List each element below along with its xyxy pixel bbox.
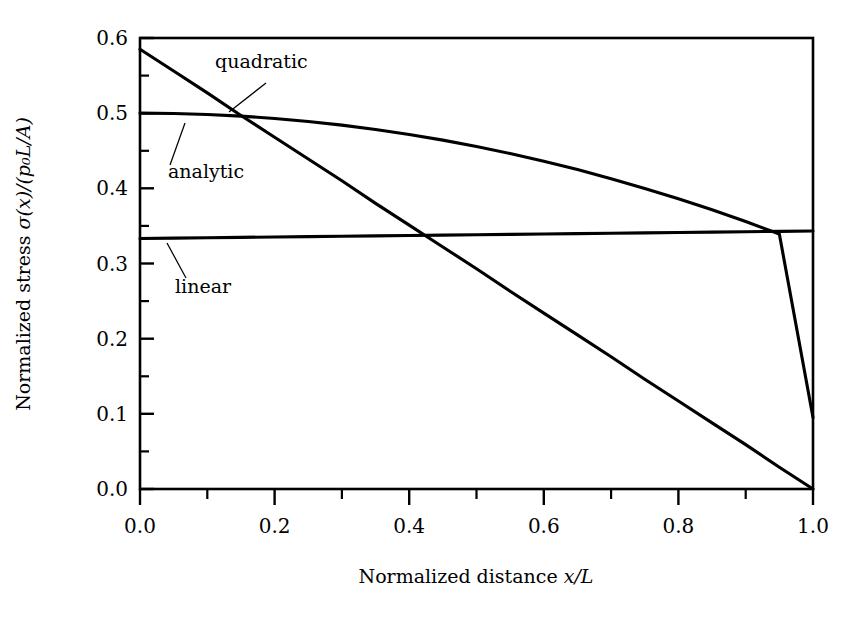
- y-tick-label: 0.0: [96, 477, 128, 501]
- y-tick-label: 0.5: [96, 101, 128, 125]
- x-axis-title-group: Normalized distance x/L: [359, 565, 594, 587]
- y-tick-label: 0.6: [96, 26, 128, 50]
- y-axis-title-math: σ(x)/(p₀L/A): [12, 117, 34, 229]
- x-axis-title-prefix: Normalized distance: [359, 565, 564, 587]
- y-axis-title: Normalized stress σ(x)/(p₀L/A): [12, 117, 34, 411]
- x-tick-label: 0.6: [528, 514, 560, 538]
- x-tick-label: 1.0: [797, 514, 829, 538]
- y-axis-title-prefix: Normalized stress: [12, 229, 34, 410]
- x-tick-label: 0.0: [124, 514, 156, 538]
- stress-distribution-chart: 0.0 0.1 0.2 0.3 0.4 0.5 0.6 0.0 0.2 0.4 …: [0, 0, 865, 627]
- x-axis-title: Normalized distance x/L: [359, 565, 594, 587]
- x-tick-label: 0.2: [259, 514, 291, 538]
- x-tick-label: 0.8: [662, 514, 694, 538]
- x-tick-label: 0.4: [393, 514, 425, 538]
- y-axis-title-group: Normalized stress σ(x)/(p₀L/A): [12, 117, 34, 411]
- y-tick-label: 0.2: [96, 327, 128, 351]
- series-label-quadratic: quadratic: [215, 50, 308, 72]
- y-tick-label: 0.1: [96, 402, 128, 426]
- series-label-linear: linear: [175, 275, 232, 297]
- y-tick-label: 0.3: [96, 252, 128, 276]
- x-axis-title-math: x/L: [564, 565, 594, 587]
- series-label-analytic: analytic: [168, 160, 244, 182]
- figure-container: 0.0 0.1 0.2 0.3 0.4 0.5 0.6 0.0 0.2 0.4 …: [0, 0, 865, 627]
- y-tick-label: 0.4: [96, 176, 128, 200]
